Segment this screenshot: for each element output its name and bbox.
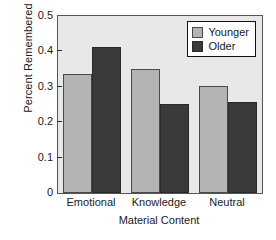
legend-item-younger: Younger: [192, 25, 249, 39]
y-tick-mark: [57, 86, 62, 87]
bar-younger-emotional: [63, 74, 92, 193]
y-tick-label: 0.5: [27, 10, 53, 20]
y-tick-label: 0.4: [27, 45, 53, 55]
bar-older-neutral: [228, 102, 257, 193]
bar-group: [63, 16, 121, 193]
x-tick-label: Neutral: [182, 196, 272, 208]
x-axis-title: Material Content: [57, 214, 261, 226]
legend-label-younger: Younger: [208, 27, 249, 38]
bar-younger-knowledge: [131, 69, 160, 193]
bar-older-emotional: [92, 47, 121, 193]
legend-label-older: Older: [208, 41, 235, 52]
legend: Younger Older: [187, 21, 256, 57]
legend-swatch-older-icon: [192, 41, 203, 52]
bar-older-knowledge: [160, 104, 189, 193]
bar-group: [131, 16, 189, 193]
y-tick-mark: [57, 50, 62, 51]
y-tick-mark: [57, 121, 62, 122]
bar-chart-figure: Percent Remembered 00.10.20.30.40.5 Youn…: [0, 0, 276, 240]
y-tick-label: 0.1: [27, 152, 53, 162]
legend-item-older: Older: [192, 39, 249, 53]
y-tick-label: 0.3: [27, 81, 53, 91]
legend-swatch-younger-icon: [192, 27, 203, 38]
y-tick-label: 0.2: [27, 116, 53, 126]
plot-area: Younger Older: [57, 15, 263, 194]
bar-younger-neutral: [199, 86, 228, 193]
y-tick-mark: [57, 157, 62, 158]
